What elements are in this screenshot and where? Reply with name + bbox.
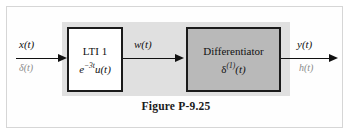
lti-1-tail: u(t) (95, 62, 111, 74)
intermediate-arrow-line (123, 58, 176, 59)
input-arrow-head (58, 54, 67, 62)
differentiator-exponent: (1) (227, 61, 236, 70)
input-signal-label: x(t) (19, 38, 34, 50)
block-differentiator-impulse-response: δ(1)(t) (221, 62, 245, 75)
input-impulse-label: δ(t) (19, 62, 33, 73)
output-arrow-head (329, 54, 338, 62)
block-lti-1-impulse-response: e−3tu(t) (79, 62, 111, 75)
block-lti-1-title: LTI 1 (83, 45, 107, 57)
block-differentiator[interactable]: Differentiator δ(1)(t) (186, 27, 281, 92)
differentiator-tail: (t) (235, 62, 245, 74)
output-impulse-label: h(t) (299, 62, 313, 73)
output-arrow-line (281, 58, 331, 59)
block-differentiator-title: Differentiator (203, 45, 263, 57)
input-arrow-line (16, 58, 60, 59)
figure-caption: Figure P-9.25 (0, 100, 352, 112)
output-signal-label: y(t) (297, 38, 312, 50)
intermediate-signal-label: w(t) (134, 38, 152, 50)
block-lti-1[interactable]: LTI 1 e−3tu(t) (67, 27, 123, 92)
lti-1-exponent: −3t (84, 61, 95, 70)
figure-block-diagram: x(t) δ(t) LTI 1 e−3tu(t) w(t) Differenti… (0, 0, 352, 140)
intermediate-arrow-head (175, 54, 184, 62)
